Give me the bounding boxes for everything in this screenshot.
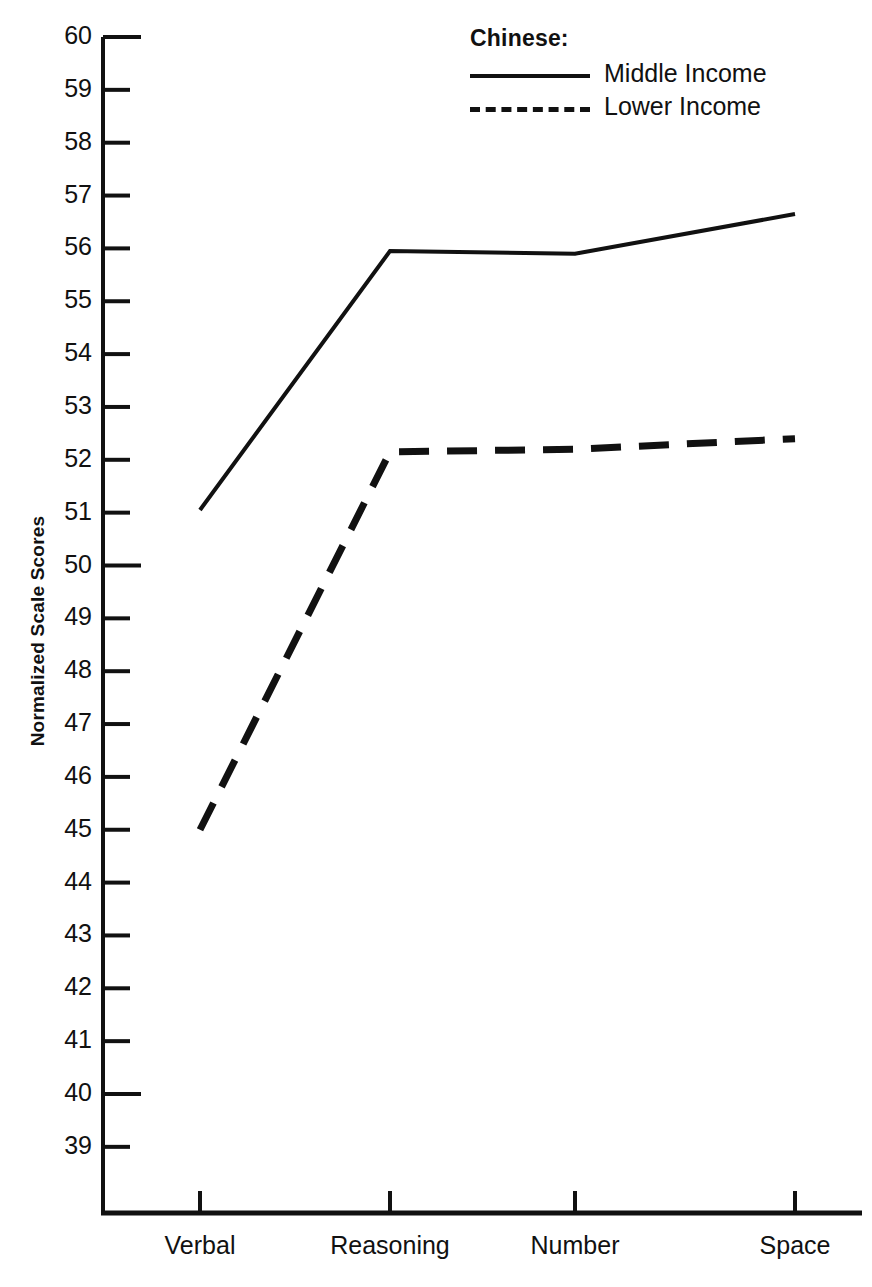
axis-lines — [101, 37, 862, 1213]
legend-item-middle-income: Middle Income — [470, 59, 810, 88]
legend-title: Chinese: — [470, 25, 810, 52]
chart-legend: Chinese: Middle Income Lower Income — [470, 25, 810, 125]
legend-item-lower-income: Lower Income — [470, 92, 810, 121]
chart-figure: Normalized Scale Scores 6059585756555453… — [0, 0, 872, 1287]
y-axis-ticks — [103, 37, 141, 1147]
data-series — [200, 214, 795, 830]
plot-area — [0, 0, 872, 1287]
legend-label-middle-income: Middle Income — [590, 59, 767, 88]
legend-swatch-solid-line-icon — [470, 63, 590, 85]
series-line-middle-income — [200, 214, 795, 510]
x-axis-ticks — [200, 1191, 795, 1213]
legend-swatch-dashed-line-icon — [470, 96, 590, 118]
legend-label-lower-income: Lower Income — [590, 92, 761, 121]
series-line-lower-income — [200, 439, 795, 830]
